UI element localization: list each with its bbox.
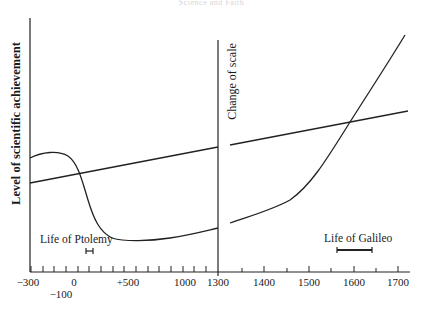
x-tick-label: 1000	[174, 276, 196, 288]
chart-canvas	[0, 0, 423, 310]
x-tick-label: 1600	[343, 276, 365, 288]
galileo-annotation: Life of Galileo	[324, 232, 392, 244]
x-tick-label: 1300	[207, 276, 229, 288]
x-ticks-right	[242, 266, 398, 272]
x-ticks-left	[31, 266, 206, 272]
ptolemy-lifespan-marker	[86, 248, 93, 254]
x-tick-label: −300	[17, 276, 40, 288]
x-tick-label: +500	[117, 276, 140, 288]
ptolemy-annotation: Life of Ptolemy	[40, 233, 113, 245]
x-tick-label: 1700	[387, 276, 409, 288]
galileo-lifespan-marker	[337, 247, 372, 253]
y-axis-label: Level of scientific achievement	[9, 34, 24, 214]
x-tick-label: 1500	[298, 276, 320, 288]
x-tick-label: 0	[71, 276, 77, 288]
x-tick-label: −100	[50, 288, 73, 300]
scale-divider-label: Change of scale	[225, 32, 240, 132]
x-tick-label: 1400	[253, 276, 275, 288]
trend-line-right	[230, 111, 408, 145]
achievement-curve-right	[230, 35, 405, 223]
